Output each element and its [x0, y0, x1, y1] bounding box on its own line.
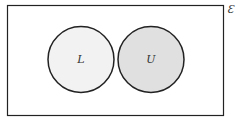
venn-diagram: Ɛ L U: [0, 0, 236, 122]
universal-set-label: Ɛ: [227, 3, 235, 16]
set-l-label: L: [76, 53, 84, 66]
universal-set-rectangle: [8, 6, 224, 116]
set-u-label: U: [146, 53, 156, 66]
